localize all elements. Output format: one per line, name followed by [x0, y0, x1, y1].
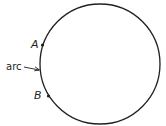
circle — [40, 4, 160, 124]
arc-label: arc — [6, 61, 22, 72]
circle-diagram: A B arc — [0, 0, 166, 126]
point-b-label: B — [34, 89, 42, 102]
point-b — [47, 94, 50, 97]
point-a — [41, 43, 44, 46]
point-a-label: A — [30, 38, 39, 51]
